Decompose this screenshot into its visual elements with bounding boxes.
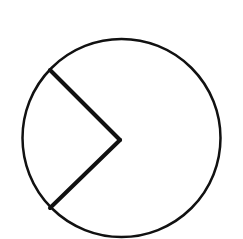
radius-upper — [50, 70, 120, 140]
radius-lower — [50, 140, 120, 208]
circle-sector-diagram — [0, 0, 243, 239]
